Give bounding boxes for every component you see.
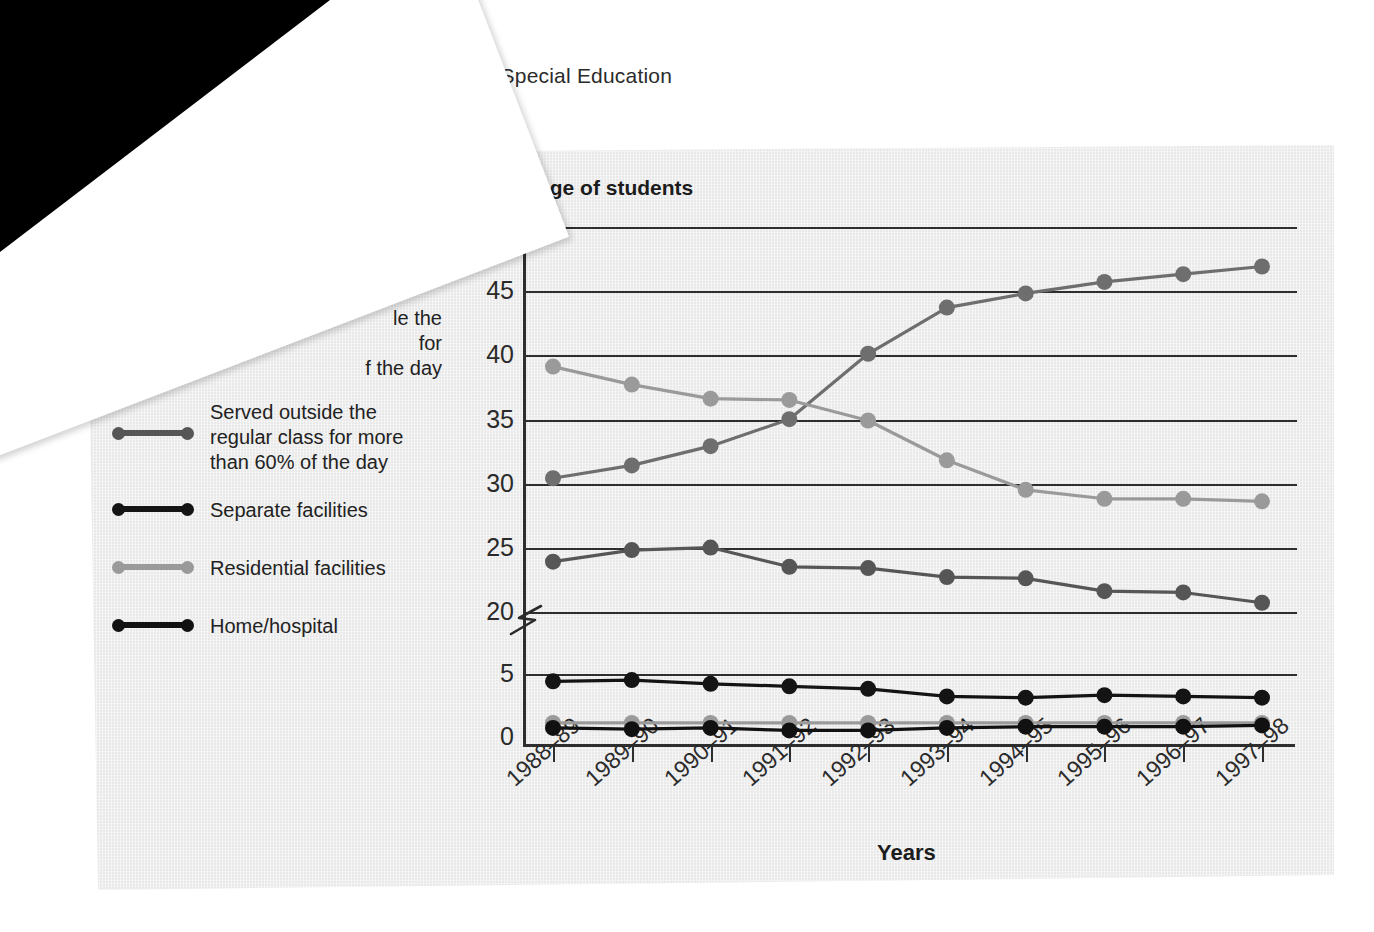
gridline (525, 420, 1297, 422)
legend-label: Served outside the regular class for mor… (210, 400, 436, 475)
y-tick-label: 40 (462, 340, 514, 369)
x-tick-label: 1995–96 (1052, 712, 1137, 792)
gridline (525, 291, 1297, 293)
data-point (545, 359, 561, 375)
data-point (703, 676, 719, 692)
data-point (860, 681, 876, 697)
x-tick-label: 1996–97 (1131, 712, 1216, 792)
gridline (525, 612, 1297, 614)
series-3 (545, 672, 1270, 706)
data-point (703, 391, 719, 407)
x-tick-label: 1989–90 (580, 712, 665, 792)
legend-marker (112, 502, 194, 514)
y-tick-label: 20 (462, 597, 514, 626)
series-line (553, 548, 1262, 603)
x-tick-label: 1991–92 (737, 712, 822, 792)
data-point (1096, 491, 1112, 507)
y-tick-label: 5 (462, 659, 514, 688)
y-tick-label: 45 (462, 276, 514, 305)
scanned-page-photo: ptionality and Special Education Percent… (0, 0, 1374, 932)
legend-marker (112, 618, 194, 630)
series-line (553, 267, 1262, 479)
legend-label: Residential facilities (210, 556, 442, 581)
x-axis-title: Years (877, 840, 936, 866)
series-2 (545, 540, 1270, 611)
y-tick-label: 35 (462, 405, 514, 434)
data-point (1175, 688, 1191, 704)
data-point (939, 688, 955, 704)
data-point (1254, 595, 1270, 611)
gridline (525, 355, 1297, 357)
data-point (939, 300, 955, 316)
data-point (1254, 259, 1270, 275)
legend-item-served-outside: Served outside the regular class for mor… (112, 400, 442, 482)
legend-item-separate-facilities: Separate facilities (112, 498, 442, 540)
legend-label: Home/hospital (210, 614, 442, 639)
data-point (1018, 570, 1034, 586)
legend-marker (112, 426, 194, 438)
data-point (781, 678, 797, 694)
x-tick-label: 1994–95 (974, 712, 1059, 792)
x-tick-label: 1990–91 (659, 712, 744, 792)
data-point (1175, 584, 1191, 600)
data-point (939, 569, 955, 585)
series-line (553, 367, 1262, 502)
legend-item-residential-facilities: Residential facilities (112, 556, 442, 598)
x-tick-label: 1993–94 (895, 712, 980, 792)
y-tick-label: 25 (462, 533, 514, 562)
x-tick-label: 1992–93 (816, 712, 901, 792)
data-point (1175, 266, 1191, 282)
data-point (624, 542, 640, 558)
series-1 (545, 359, 1270, 510)
data-point (860, 560, 876, 576)
data-point (1096, 583, 1112, 599)
x-tick-label: 1997–98 (1210, 712, 1295, 792)
data-point (703, 438, 719, 454)
data-point (1096, 687, 1112, 703)
data-point (1175, 491, 1191, 507)
gridline (525, 484, 1297, 486)
data-point (1018, 285, 1034, 301)
data-point (860, 346, 876, 362)
data-point (624, 457, 640, 473)
data-point (1018, 690, 1034, 706)
y-tick-label: 0 (462, 722, 514, 751)
data-point (781, 559, 797, 575)
gridline (525, 227, 1297, 229)
series-line (553, 680, 1262, 698)
gridline (525, 548, 1297, 550)
data-point (781, 392, 797, 408)
legend-marker (112, 560, 194, 572)
data-point (624, 377, 640, 393)
data-point (545, 554, 561, 570)
data-point (939, 452, 955, 468)
data-point (1254, 690, 1270, 706)
legend-label: Separate facilities (210, 498, 442, 523)
data-point (1096, 274, 1112, 290)
y-tick-label: 30 (462, 469, 514, 498)
gridline (525, 674, 1297, 676)
data-point (1254, 493, 1270, 509)
y-axis-line (523, 234, 526, 747)
legend-item-home-hospital: Home/hospital (112, 614, 442, 656)
